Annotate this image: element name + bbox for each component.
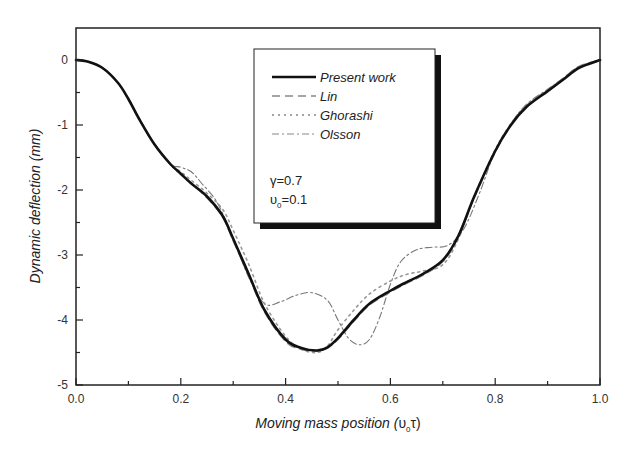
y-tick-label: -5	[57, 378, 68, 392]
param-gamma: γ=0.7	[270, 173, 302, 188]
x-tick-label: 0.0	[68, 392, 85, 406]
x-tick-label: 0.4	[277, 392, 294, 406]
x-axis-ticks: 0.00.20.40.60.81.0	[68, 378, 609, 406]
x-tick-label: 1.0	[592, 392, 609, 406]
y-tick-label: -3	[57, 248, 68, 262]
y-axis-title: Dynamic deflection (mm)	[27, 129, 43, 284]
y-tick-label: 0	[61, 53, 68, 67]
x-tick-label: 0.2	[172, 392, 189, 406]
chart: 0.00.20.40.60.81.0 0-1-2-3-4-5 Moving ma…	[0, 0, 633, 456]
x-tick-label: 0.8	[487, 392, 504, 406]
legend-label: Ghorashi	[320, 108, 374, 123]
x-axis-title: Moving mass position (υ0τ)	[255, 415, 420, 434]
y-tick-label: -2	[57, 183, 68, 197]
legend-label: Lin	[320, 89, 337, 104]
legend-label: Present work	[320, 70, 397, 85]
legend-label: Olsson	[320, 127, 360, 142]
y-tick-label: -4	[57, 313, 68, 327]
x-tick-label: 0.6	[382, 392, 399, 406]
y-tick-label: -1	[57, 118, 68, 132]
legend: Present workLinGhorashiOlsson γ=0.7 υ0=0…	[254, 49, 441, 229]
y-axis-ticks: 0-1-2-3-4-5	[57, 53, 83, 392]
